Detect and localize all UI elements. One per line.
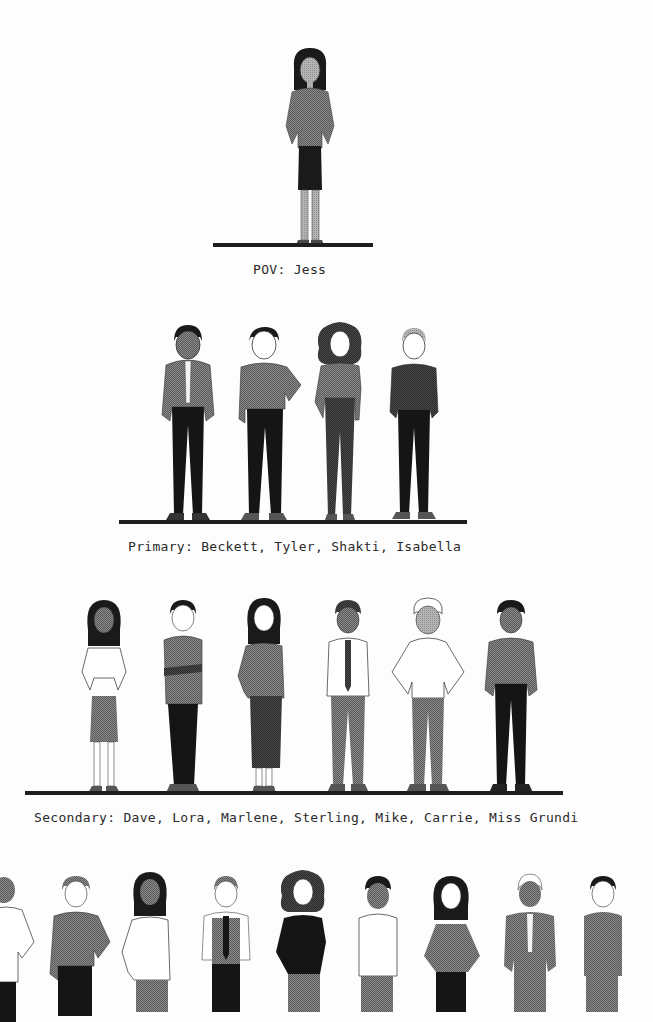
character-jess <box>280 48 340 246</box>
character-mike <box>390 598 466 794</box>
character-shakti <box>313 322 367 522</box>
character-beckett <box>160 325 216 521</box>
female-figure-icon <box>280 48 340 246</box>
ground-line <box>25 791 563 795</box>
character-marlene <box>236 598 292 794</box>
tier-label-secondary: Secondary: Dave, Lora, Marlene, Sterling… <box>34 810 579 825</box>
character-carrie <box>483 600 539 794</box>
ground-line <box>213 243 373 247</box>
ground-line <box>119 520 467 524</box>
character-unnamed-5 <box>274 870 332 1012</box>
character-sterling <box>325 600 371 794</box>
character-unnamed-9 <box>580 876 626 1012</box>
character-unnamed-1 <box>0 872 36 1022</box>
character-isabella <box>388 328 440 520</box>
character-unnamed-3 <box>120 872 176 1012</box>
tier-label-pov: POV: Jess <box>253 262 326 277</box>
character-lora <box>160 600 206 794</box>
character-tyler <box>237 327 303 521</box>
character-unnamed-6 <box>355 876 401 1012</box>
character-dave <box>74 600 134 794</box>
character-unnamed-4 <box>200 876 252 1012</box>
character-unnamed-2 <box>48 876 112 1016</box>
character-unnamed-8 <box>502 874 558 1012</box>
character-unnamed-7 <box>420 876 482 1012</box>
tier-label-primary: Primary: Beckett, Tyler, Shakti, Isabell… <box>128 539 461 554</box>
